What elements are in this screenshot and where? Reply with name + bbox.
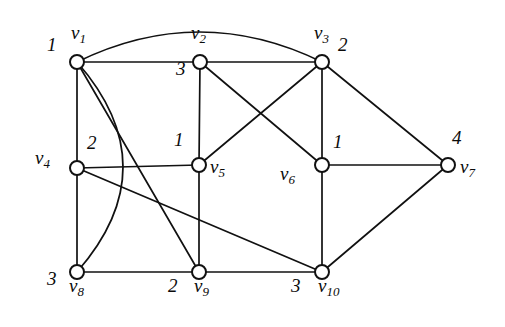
vertex-name-v5: v5 [210, 157, 225, 176]
graph-figure: v11v23v32v42v51v61v74v83v92v103 [0, 0, 505, 327]
vertex-label-v1: 1 [47, 35, 57, 54]
vertex-name-v8: v8 [69, 276, 84, 295]
vertex-name-index-v9: 9 [202, 284, 209, 299]
vertex-label-v3: 2 [338, 35, 348, 54]
vertex-name-index-v1: 1 [79, 31, 86, 46]
vertex-v4 [70, 161, 84, 175]
vertex-v5 [192, 158, 206, 172]
vertex-name-v6: v6 [280, 164, 295, 183]
vertex-name-index-v5: 5 [218, 165, 225, 180]
vertex-label-v2: 3 [176, 59, 186, 78]
vertex-name-v3: v3 [314, 23, 329, 42]
vertex-label-v8: 3 [47, 269, 57, 288]
vertex-name-v10: v10 [318, 276, 339, 295]
vertex-name-index-v7: 7 [468, 165, 475, 180]
vertex-name-index-v2: 2 [199, 31, 206, 46]
vertex-name-index-v8: 8 [77, 284, 84, 299]
vertex-label-v6: 1 [333, 132, 343, 151]
vertex-v3 [315, 55, 329, 69]
vertex-v7 [441, 158, 455, 172]
vertex-name-v4: v4 [35, 148, 50, 167]
vertex-name-v7: v7 [460, 157, 475, 176]
vertex-label-v7: 4 [452, 128, 462, 147]
vertex-v6 [315, 158, 329, 172]
vertex-label-v5: 1 [174, 130, 184, 149]
edge-v2-v5 [199, 62, 200, 165]
vertex-name-v9: v9 [194, 276, 209, 295]
edge-v7-v10 [322, 165, 448, 272]
vertex-name-index-v6: 6 [288, 172, 295, 187]
vertex-label-v9: 2 [168, 276, 178, 295]
vertex-name-v1: v1 [71, 23, 86, 42]
vertex-name-index-v10: 10 [326, 284, 339, 299]
vertex-v1 [70, 55, 84, 69]
vertex-v2 [193, 55, 207, 69]
vertex-label-v4: 2 [87, 133, 97, 152]
vertex-label-v10: 3 [291, 276, 301, 295]
vertex-name-index-v4: 4 [43, 156, 50, 171]
vertex-name-v2: v2 [191, 23, 206, 42]
vertex-name-index-v3: 3 [322, 31, 329, 46]
edge-layer [77, 32, 448, 272]
